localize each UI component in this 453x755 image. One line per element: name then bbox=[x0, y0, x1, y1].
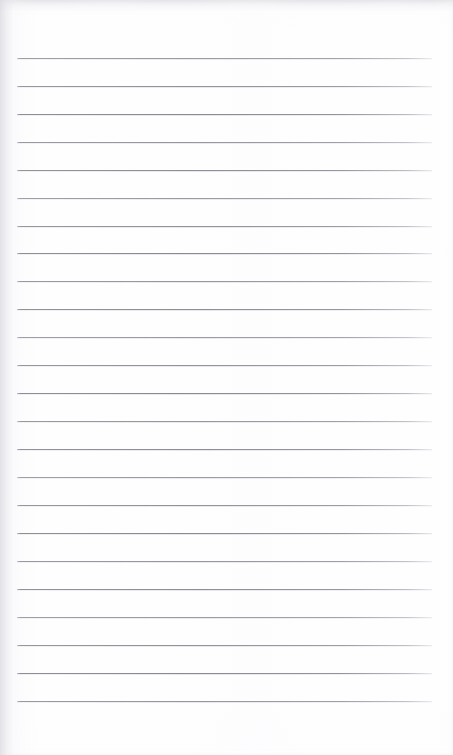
notepaper-page bbox=[0, 0, 453, 755]
writing-area[interactable] bbox=[17, 32, 432, 704]
